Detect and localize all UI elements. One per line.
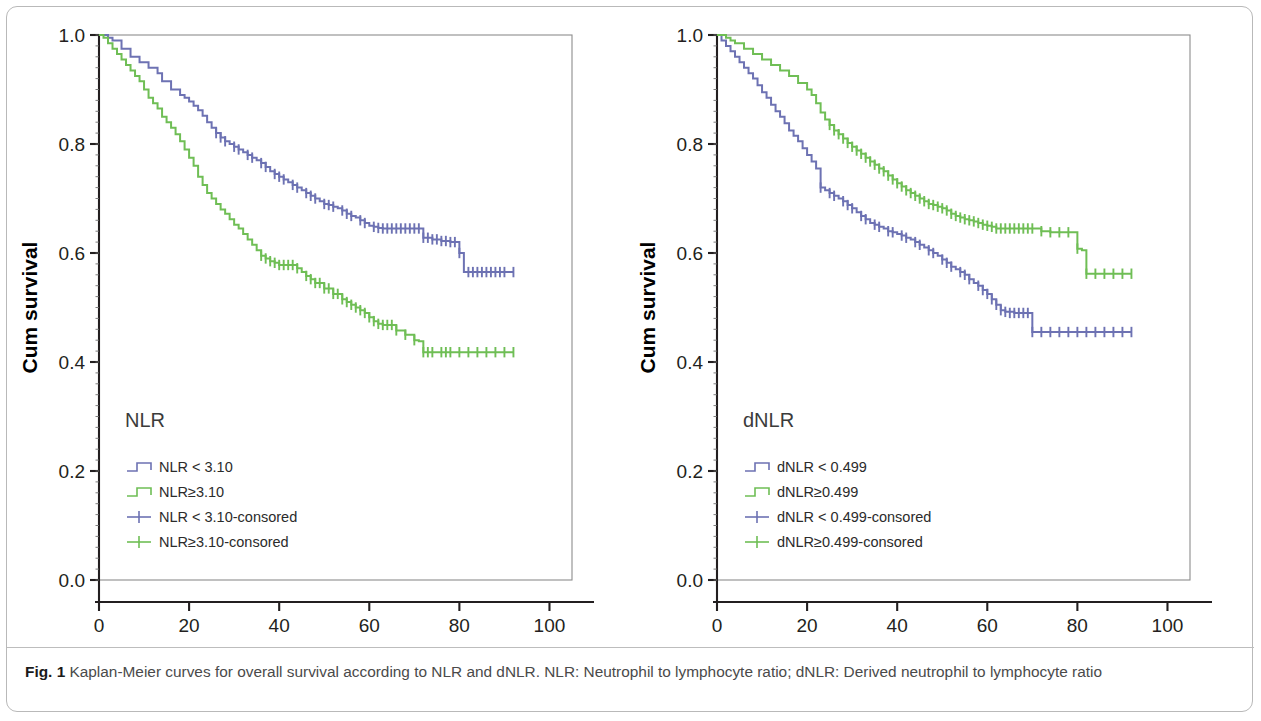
y-tick-label: 0.2 [677,461,703,482]
y-tick-label: 1.0 [59,25,85,46]
x-tick-label: 60 [359,615,380,636]
km-curve [717,35,1131,274]
figure-caption-body: Kaplan-Meier curves for overall survival… [69,663,1102,680]
legend-label: NLR≥3.10 [159,484,224,500]
x-tick-label: 20 [797,615,818,636]
legend-item: dNLR < 0.499-consored [745,509,931,525]
x-tick-label: 60 [977,615,998,636]
y-tick-label: 0.8 [677,134,703,155]
figure-plot-area: 0.00.20.40.60.81.0020406080100Overall su… [7,7,1254,647]
legend-label: NLR < 3.10 [159,459,233,475]
panel-nlr: 0.00.20.40.60.81.0020406080100Overall su… [7,7,630,647]
legend-item: dNLR≥0.499 [745,484,858,500]
censor-marks [261,251,513,358]
censor-marks [821,182,1132,337]
y-tick-label: 0.4 [59,352,86,373]
y-tick-label: 1.0 [677,25,703,46]
y-tick-label: 0.0 [677,570,703,591]
km-curve [99,35,513,272]
km-curve [717,35,1131,332]
legend-step-icon [745,463,769,471]
y-tick-label: 0.6 [59,243,85,264]
x-tick-label: 40 [269,615,290,636]
legend-label: dNLR≥0.499-consored [777,534,923,550]
figure-card: 0.00.20.40.60.81.0020406080100Overall su… [6,6,1253,712]
panel-dnlr: 0.00.20.40.60.81.0020406080100Overall su… [625,7,1248,647]
km-chart-nlr: 0.00.20.40.60.81.0020406080100Overall su… [7,7,630,647]
y-tick-label: 0.6 [677,243,703,264]
legend-label: dNLR < 0.499-consored [777,509,931,525]
figure-caption: Fig. 1 Kaplan-Meier curves for overall s… [7,647,1254,711]
legend-item: NLR≥3.10 [127,484,224,500]
legend-item: NLR < 3.10 [127,459,233,475]
legend-item: dNLR < 0.499 [745,459,867,475]
y-axis-title: Cum survival [636,242,659,374]
x-tick-label: 20 [179,615,200,636]
legend-step-icon [745,488,769,496]
legend-item: NLR < 3.10-consored [127,509,297,525]
legend-title: NLR [125,409,165,431]
legend-label: NLR < 3.10-consored [159,509,297,525]
x-tick-label: 0 [712,615,723,636]
y-tick-label: 0.8 [59,134,85,155]
legend-label: NLR≥3.10-consored [159,534,289,550]
x-tick-label: 80 [1067,615,1088,636]
y-tick-label: 0.4 [677,352,704,373]
figure-caption-prefix: Fig. 1 [25,663,65,680]
x-tick-label: 100 [1152,615,1184,636]
legend-label: dNLR≥0.499 [777,484,858,500]
legend-step-icon [127,463,151,471]
x-tick-label: 40 [887,615,908,636]
y-tick-label: 0.2 [59,461,85,482]
x-tick-label: 80 [449,615,470,636]
legend-label: dNLR < 0.499 [777,459,867,475]
y-axis-title: Cum survival [18,242,41,374]
legend-item: NLR≥3.10-consored [127,534,289,550]
x-tick-label: 100 [534,615,566,636]
legend-item: dNLR≥0.499-consored [745,534,923,550]
figure-caption-text: Fig. 1 Kaplan-Meier curves for overall s… [25,661,1232,683]
x-tick-label: 0 [94,615,105,636]
legend-title: dNLR [743,409,794,431]
y-tick-label: 0.0 [59,570,85,591]
legend-step-icon [127,488,151,496]
km-chart-dnlr: 0.00.20.40.60.81.0020406080100Overall su… [625,7,1248,647]
